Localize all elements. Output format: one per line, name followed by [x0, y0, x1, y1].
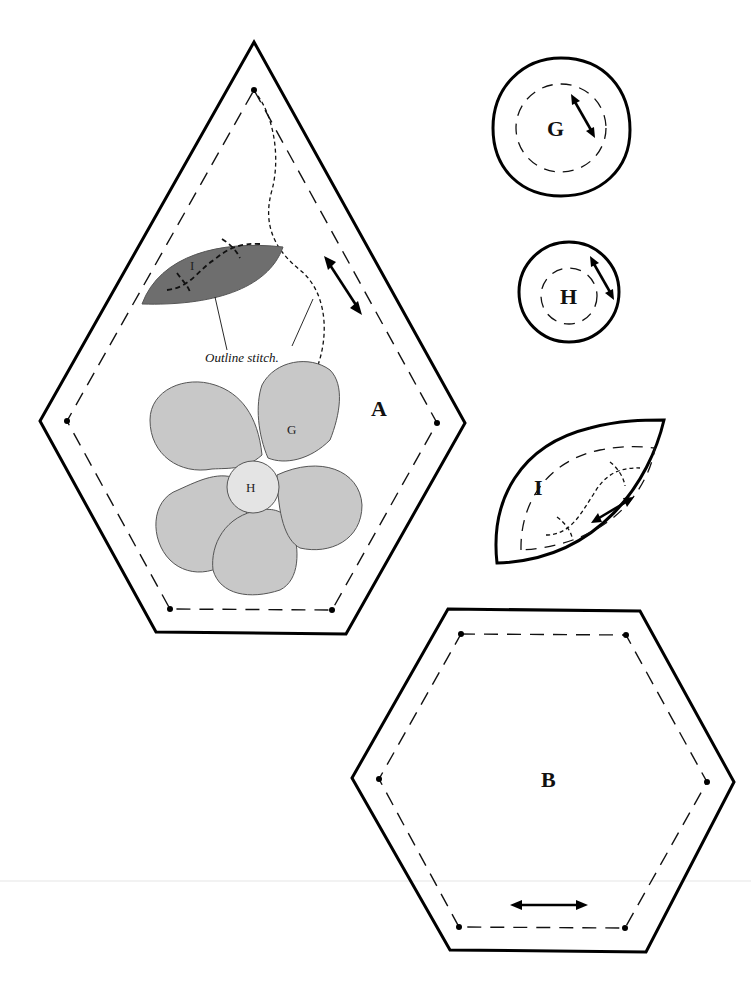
corner-dot: [329, 607, 335, 613]
template-h-label: H: [560, 284, 577, 309]
template-sheet: I Outline stitch. G H A G: [0, 0, 751, 988]
pointer-line: [292, 299, 313, 346]
corner-dot: [167, 606, 173, 612]
template-g: G: [493, 58, 630, 196]
pointer-line: [215, 297, 227, 350]
corner-dot: [251, 87, 257, 93]
grain-arrow-icon: [571, 94, 595, 138]
corner-dot: [434, 420, 440, 426]
template-i: I: [496, 420, 664, 563]
corner-dot: [623, 632, 629, 638]
grain-arrow-icon: [510, 900, 588, 910]
applique-flower: G H: [150, 362, 362, 595]
template-g-label: G: [547, 116, 564, 141]
template-b-label: B: [541, 767, 556, 792]
petal-label: G: [287, 422, 296, 437]
corner-dot: [458, 631, 464, 637]
template-h: H: [519, 242, 619, 342]
corner-dot: [704, 779, 710, 785]
stem-outline-stitch: [258, 96, 324, 365]
template-b: B: [352, 609, 734, 952]
pattern-canvas: I Outline stitch. G H A G: [0, 0, 751, 988]
template-i-label: I: [534, 475, 543, 500]
template-a: I Outline stitch. G H A: [40, 42, 465, 634]
leaf-label: I: [190, 258, 194, 273]
petal: [277, 466, 362, 550]
applique-leaf-i: [142, 245, 283, 304]
corner-dot: [456, 924, 462, 930]
grain-arrow-icon: [324, 256, 362, 315]
corner-dot: [64, 418, 70, 424]
leaf-vein-stitch: [557, 517, 572, 537]
corner-dot: [622, 925, 628, 931]
template-a-label: A: [371, 396, 387, 421]
petal: [150, 382, 262, 470]
corner-dot: [376, 776, 382, 782]
center-label: H: [246, 480, 255, 495]
petal-g: [258, 362, 339, 461]
grain-arrow-icon: [591, 497, 634, 523]
outline-stitch-caption: Outline stitch.: [205, 350, 279, 365]
